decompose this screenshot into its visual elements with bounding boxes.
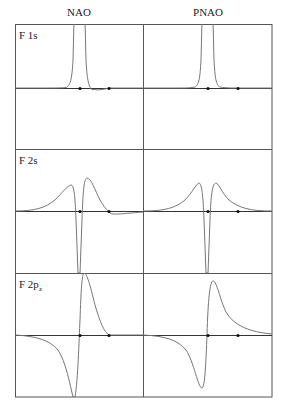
row-label-f2s-text: F 2s <box>19 154 38 166</box>
row-label-f2pz: F 2pz <box>19 278 42 293</box>
row-label-f2pz-subscript: z <box>39 285 42 293</box>
row-label-f1s: F 1s <box>19 29 38 41</box>
curve-2s-pnao <box>143 183 272 273</box>
row-label-f2pz-text: F 2p <box>19 278 39 290</box>
orbital-plot-grid <box>0 0 284 413</box>
row-label-f2s: F 2s <box>19 154 38 166</box>
row-label-f1s-text: F 1s <box>19 29 38 41</box>
curve-1s-pnao <box>143 20 272 88</box>
curve-2s-nao <box>15 178 143 273</box>
